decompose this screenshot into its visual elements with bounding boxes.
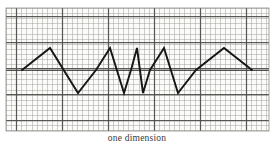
- figure-caption: one dimension: [0, 133, 274, 143]
- graph-paper-chart: [0, 0, 274, 145]
- figure-graph-paper-waveform: one dimension: [0, 0, 274, 145]
